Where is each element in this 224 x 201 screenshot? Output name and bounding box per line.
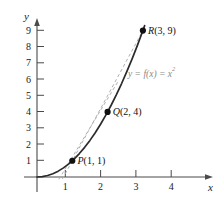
y-axis-tick-labels: 1 2 3 4 5 6 7 8 9	[26, 25, 31, 166]
y-axis-ticks	[37, 30, 44, 160]
y-tick-label-3: 3	[26, 122, 31, 133]
function-equation-label: y = f(x) = x2	[127, 64, 176, 80]
point-label-r-letter: R	[147, 25, 154, 36]
y-tick-label-6: 6	[26, 74, 31, 85]
function-equation-text: y = f(x) = x	[127, 69, 173, 80]
x-tick-label-1: 1	[63, 181, 68, 192]
x-tick-label-2: 2	[98, 181, 103, 192]
parabola-secant-figure: 1 2 3 4 5 6 7 8 9 1 2 3 4 y x	[0, 0, 224, 201]
y-axis-arrowhead	[34, 18, 40, 26]
point-label-q-coords: (2, 4)	[120, 106, 142, 118]
point-label-p-coords: (1, 1)	[84, 155, 106, 167]
point-label-q: Q(2, 4)	[113, 106, 142, 118]
point-label-p: P(1, 1)	[77, 155, 106, 167]
plot-canvas: 1 2 3 4 5 6 7 8 9 1 2 3 4 y x	[0, 0, 224, 201]
x-tick-label-4: 4	[169, 181, 174, 192]
y-tick-label-4: 4	[26, 106, 31, 117]
x-axis-label: x	[207, 181, 213, 193]
point-label-r-coords: (3, 9)	[154, 25, 176, 37]
data-point-r[interactable]	[140, 27, 146, 33]
x-axis-tick-labels: 1 2 3 4	[63, 181, 174, 192]
point-labels-group: P(1, 1) Q(2, 4) R(3, 9)	[77, 25, 176, 167]
y-tick-label-7: 7	[26, 57, 31, 68]
point-label-r: R(3, 9)	[147, 25, 176, 37]
y-axis-label: y	[23, 10, 29, 22]
y-tick-label-8: 8	[26, 41, 31, 52]
data-point-q[interactable]	[105, 109, 111, 115]
axes-group	[24, 18, 213, 192]
x-tick-label-3: 3	[133, 181, 138, 192]
x-axis-arrowhead	[205, 174, 213, 180]
y-tick-label-5: 5	[26, 90, 31, 101]
y-tick-label-1: 1	[26, 155, 31, 166]
y-tick-label-2: 2	[26, 139, 31, 150]
function-equation-exponent: 2	[172, 64, 176, 71]
y-tick-label-9: 9	[26, 25, 31, 36]
point-label-p-letter: P	[77, 155, 84, 166]
data-point-p[interactable]	[69, 158, 75, 164]
x-axis-ticks	[65, 170, 171, 177]
